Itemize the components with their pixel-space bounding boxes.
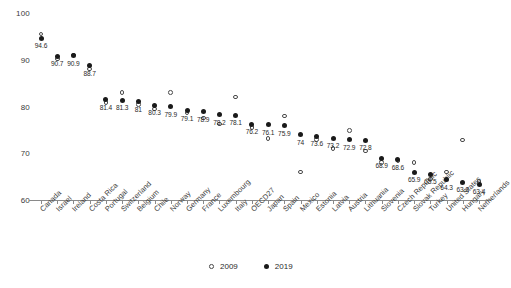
data-point-2009 (298, 170, 303, 175)
data-point-2019 (168, 104, 173, 109)
data-point-value-label: 76.1 (262, 129, 274, 136)
data-point-value-label: 81 (135, 106, 142, 113)
y-axis-tick-label: 60 (8, 196, 30, 205)
filled-circle-icon (264, 264, 269, 269)
data-point-value-label: 76.2 (246, 128, 258, 135)
data-point-value-label: 78.9 (197, 116, 209, 123)
data-point-value-label: 78.2 (213, 119, 225, 126)
data-point-2009 (266, 136, 271, 141)
y-axis-tick-label: 90 (8, 56, 30, 65)
data-point-2009 (444, 170, 449, 175)
data-point-value-label: 75.9 (278, 130, 290, 137)
data-point-2009 (460, 138, 465, 143)
data-point-value-label: 94.6 (35, 42, 47, 49)
chart-legend: 2009 2019 (0, 262, 502, 271)
legend-item-2009[interactable]: 2009 (209, 262, 237, 271)
data-point-2009 (168, 90, 173, 95)
data-point-value-label: 64.3 (440, 184, 452, 191)
data-point-value-label: 65.9 (408, 176, 420, 183)
data-point-value-label: 68.9 (375, 162, 387, 169)
data-point-2019 (152, 103, 157, 108)
legend-label-2019: 2019 (275, 262, 293, 271)
data-point-value-label: 78.1 (229, 119, 241, 126)
data-point-2009 (347, 128, 352, 133)
data-point-2019 (460, 180, 465, 185)
legend-label-2009: 2009 (220, 262, 238, 271)
data-point-2009 (120, 90, 125, 95)
data-point-2019 (71, 53, 76, 58)
data-point-value-label: 63.8 (457, 186, 469, 193)
data-point-value-label: 72.9 (343, 144, 355, 151)
data-point-value-label: 90.7 (51, 60, 63, 67)
data-point-value-label: 63.4 (473, 188, 485, 195)
data-point-2019 (298, 132, 303, 137)
data-point-2019 (39, 36, 44, 41)
data-point-2019 (347, 137, 352, 142)
data-point-value-label: 68.6 (392, 164, 404, 171)
data-point-2019 (266, 122, 271, 127)
data-point-2019 (217, 112, 222, 117)
data-point-value-label: 65.5 (424, 178, 436, 185)
y-axis-tick-label: 80 (8, 103, 30, 112)
data-point-2019 (282, 123, 287, 128)
y-axis-tick-label: 70 (8, 149, 30, 158)
data-point-2019 (233, 113, 238, 118)
data-point-value-label: 73.6 (311, 140, 323, 147)
data-point-value-label: 80.3 (148, 109, 160, 116)
data-point-2019 (55, 54, 60, 59)
data-point-2019 (185, 108, 190, 113)
data-point-2019 (428, 172, 433, 177)
data-point-value-label: 79.9 (165, 111, 177, 118)
data-point-2009 (282, 114, 287, 119)
data-point-value-label: 72.8 (359, 144, 371, 151)
data-point-2019 (363, 138, 368, 143)
y-axis-tick-label: 100 (8, 9, 30, 18)
data-point-2019 (201, 109, 206, 114)
data-point-value-label: 88.7 (83, 70, 95, 77)
data-point-value-label: 81.4 (100, 104, 112, 111)
data-point-2009 (233, 95, 238, 100)
data-point-2019 (412, 170, 417, 175)
data-point-2019 (477, 182, 482, 187)
data-point-value-label: 79.1 (181, 115, 193, 122)
data-point-value-label: 81.3 (116, 104, 128, 111)
data-point-2019 (331, 136, 336, 141)
data-point-2019 (120, 98, 125, 103)
data-point-value-label: 74 (297, 139, 304, 146)
data-point-value-label: 90.9 (67, 60, 79, 67)
open-circle-icon (209, 264, 214, 269)
legend-item-2019[interactable]: 2019 (264, 262, 293, 271)
data-point-value-label: 73.2 (327, 142, 339, 149)
data-point-2009 (412, 160, 417, 165)
